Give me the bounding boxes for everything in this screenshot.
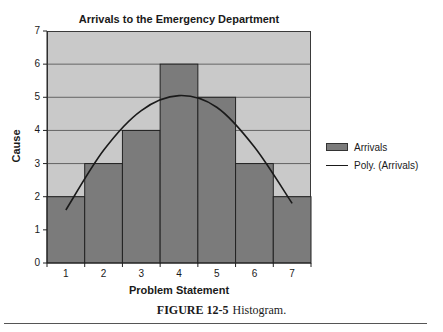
x-tick-label: 7 — [282, 268, 302, 279]
x-axis-label: Problem Statement — [47, 284, 311, 296]
figure-caption: FIGURE 12-5Histogram. — [0, 303, 443, 318]
y-tick-label: 7 — [28, 26, 40, 36]
figure-text: Histogram. — [233, 303, 287, 317]
bar — [85, 164, 123, 263]
x-tick-label: 1 — [56, 268, 76, 279]
x-tick-label: 4 — [169, 268, 189, 279]
bar — [273, 197, 311, 263]
legend: Arrivals Poly. (Arrivals) — [326, 138, 418, 174]
x-tick-label: 3 — [131, 268, 151, 279]
y-tick-label: 3 — [28, 159, 40, 169]
bar-swatch-icon — [326, 143, 348, 151]
figure-label: FIGURE 12-5 — [157, 303, 229, 317]
bar — [160, 64, 198, 263]
y-tick-label: 2 — [28, 192, 40, 202]
x-tick-label: 2 — [94, 268, 114, 279]
bar — [236, 164, 274, 263]
x-tick-label: 5 — [207, 268, 227, 279]
y-tick-label: 5 — [28, 92, 40, 102]
legend-item-arrivals: Arrivals — [326, 138, 418, 156]
legend-item-poly: Poly. (Arrivals) — [326, 156, 418, 174]
bars — [47, 64, 311, 263]
bar — [47, 197, 85, 263]
bar — [198, 97, 236, 263]
x-tick-label: 6 — [244, 268, 264, 279]
line-swatch-icon — [326, 165, 348, 166]
y-tick-label: 1 — [28, 225, 40, 235]
bar — [122, 130, 160, 263]
y-tick-label: 0 — [28, 258, 40, 268]
y-tick-label: 4 — [28, 125, 40, 135]
y-tick-label: 6 — [28, 59, 40, 69]
y-axis-label: Cause — [10, 126, 22, 166]
legend-label: Arrivals — [354, 142, 387, 153]
legend-label: Poly. (Arrivals) — [354, 160, 418, 171]
divider — [4, 323, 427, 324]
